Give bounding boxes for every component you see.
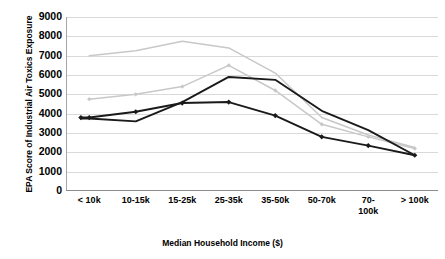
y-tick-label: 4000: [16, 108, 62, 119]
x-tick-label: 25-35k: [206, 195, 253, 206]
chart-container: EPA Score of Industrial Air Toxics Expos…: [0, 0, 445, 259]
x-tick-label-line: 15-25k: [159, 195, 206, 206]
x-tick-label-line: 50-70k: [299, 195, 346, 206]
y-tick-label: 6000: [16, 69, 62, 80]
x-tick-label-line: 35-50k: [252, 195, 299, 206]
chart-svg: [66, 17, 438, 191]
data-point-marker: [87, 97, 91, 101]
x-tick-label: 15-25k: [159, 195, 206, 206]
data-point-marker: [366, 143, 371, 148]
data-point-marker: [226, 99, 231, 104]
y-tick-label: 5000: [16, 88, 62, 99]
series-series-dark-plain: [81, 77, 415, 155]
y-tick-label: 9000: [16, 11, 62, 22]
series-line: [81, 77, 415, 155]
series-series-light-lower: [87, 63, 417, 151]
x-tick-label: < 10k: [66, 195, 113, 206]
x-tick-label-line: 70-: [345, 195, 392, 206]
x-tick-label: > 100k: [392, 195, 439, 206]
x-tick-label-line: 100k: [345, 206, 392, 217]
data-point-marker: [180, 84, 184, 88]
x-tick-label: 50-70k: [299, 195, 346, 206]
x-tick-label-line: 10-15k: [113, 195, 160, 206]
x-tick-label-line: 25-35k: [206, 195, 253, 206]
data-series-layer: [78, 41, 417, 158]
y-tick-label: 0: [16, 185, 62, 196]
x-tick-label: 10-15k: [113, 195, 160, 206]
x-axis-title: Median Household Income ($): [0, 238, 445, 248]
y-tick-label: 8000: [16, 30, 62, 41]
data-point-marker: [134, 92, 138, 96]
y-tick-label: 2000: [16, 146, 62, 157]
data-point-marker: [133, 109, 138, 114]
y-tick-label: 3000: [16, 127, 62, 138]
plot-area: [66, 17, 438, 191]
y-tick-label: 1000: [16, 166, 62, 177]
gridlines: [66, 18, 438, 192]
x-tick-label: 70-100k: [345, 195, 392, 216]
x-tick-label: 35-50k: [252, 195, 299, 206]
x-tick-label-line: > 100k: [392, 195, 439, 206]
x-tick-label-line: < 10k: [66, 195, 113, 206]
y-tick-label: 7000: [16, 50, 62, 61]
